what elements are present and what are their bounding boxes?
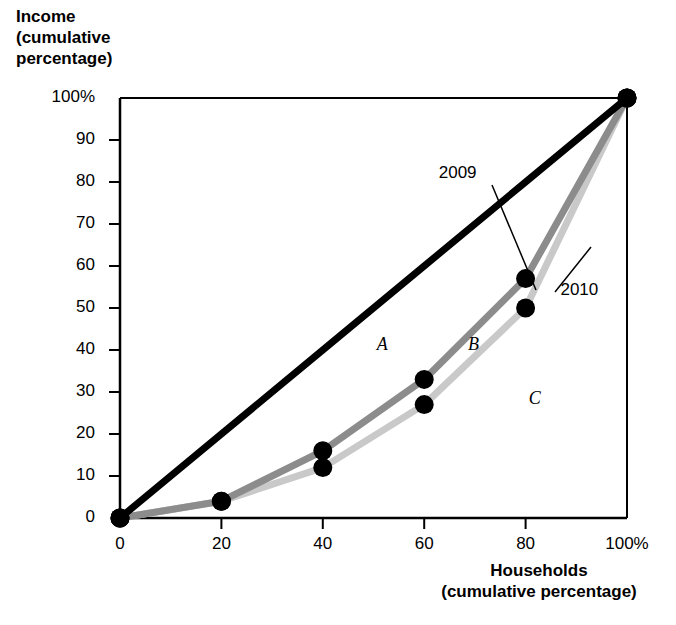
chart-plot-area <box>0 0 676 625</box>
data-point-marker <box>618 89 637 108</box>
x-tick-label: 20 <box>186 534 256 554</box>
area-c: C <box>529 388 541 409</box>
series-line-line-of-equality <box>120 98 627 518</box>
data-point-marker <box>516 269 535 288</box>
y-tick-label: 100% <box>35 87 95 107</box>
y-tick-label: 40 <box>35 339 95 359</box>
x-tick-label: 80 <box>491 534 561 554</box>
data-point-marker <box>313 441 332 460</box>
y-tick-label: 30 <box>35 381 95 401</box>
data-point-marker <box>212 492 231 511</box>
y-tick-label: 80 <box>35 171 95 191</box>
lorenz-curve-figure: Income (cumulative percentage) Household… <box>0 0 676 625</box>
y-tick-label: 90 <box>35 129 95 149</box>
x-tick-label: 0 <box>85 534 155 554</box>
series-layer <box>120 98 627 518</box>
y-tick-label: 70 <box>35 213 95 233</box>
x-tick-label: 100% <box>592 534 662 554</box>
y-tick-label: 0 <box>35 507 95 527</box>
y-tick-label: 60 <box>35 255 95 275</box>
data-point-marker <box>415 395 434 414</box>
leader-line-2009 <box>492 185 536 290</box>
area-b: B <box>468 334 479 355</box>
y-tick-label: 10 <box>35 465 95 485</box>
x-axis-ticks <box>221 518 525 529</box>
y-tick-label: 50 <box>35 297 95 317</box>
x-tick-label: 60 <box>389 534 459 554</box>
data-point-marker <box>516 299 535 318</box>
y-axis-ticks <box>109 140 120 476</box>
label-2010: 2010 <box>560 280 598 300</box>
data-point-marker <box>313 458 332 477</box>
area-a: A <box>377 334 388 355</box>
data-point-marker <box>415 370 434 389</box>
label-2009: 2009 <box>439 163 477 183</box>
x-tick-label: 40 <box>288 534 358 554</box>
data-point-marker <box>111 509 130 528</box>
y-tick-label: 20 <box>35 423 95 443</box>
